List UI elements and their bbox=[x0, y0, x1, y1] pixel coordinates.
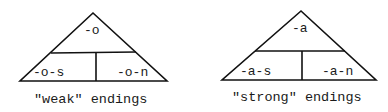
bottom-right-ending-label: -o-n bbox=[117, 65, 148, 80]
bottom-right-ending-label: -a-n bbox=[322, 64, 353, 79]
strong-endings-triangle: -a -a-s -a-n bbox=[222, 11, 376, 80]
top-ending-label: -a bbox=[292, 21, 308, 36]
horizontal-divider bbox=[51, 52, 136, 53]
bottom-left-ending-label: -a-s bbox=[240, 64, 271, 79]
top-ending-label: -o bbox=[84, 23, 100, 38]
weak-endings-triangle: -o -o-s -o-n bbox=[20, 13, 167, 81]
bottom-left-ending-label: -o-s bbox=[33, 65, 64, 80]
strong-endings-caption: "strong" endings bbox=[232, 90, 362, 105]
weak-endings-caption: "weak" endings bbox=[34, 92, 147, 107]
endings-diagram: -o -o-s -o-n "weak" endings -a -a-s -a-n… bbox=[0, 0, 388, 112]
